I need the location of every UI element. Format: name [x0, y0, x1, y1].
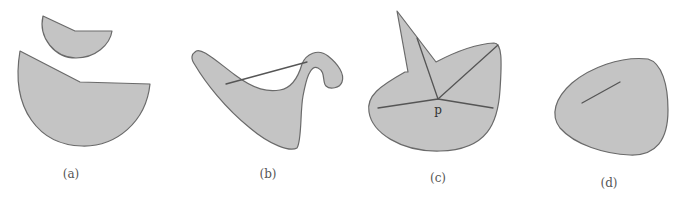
- panel-b: (b): [192, 51, 343, 181]
- panel-a-small-shape: [42, 16, 112, 58]
- panel-c: p (c): [369, 11, 502, 185]
- figure-canvas: (a) (b) p (c) (d): [0, 0, 680, 201]
- panel-c-shape: [369, 11, 502, 151]
- panel-c-label: (c): [430, 171, 446, 185]
- panel-d-shape: [555, 59, 668, 156]
- panel-d: (d): [555, 59, 668, 190]
- panel-c-point-label: p: [434, 103, 442, 117]
- panel-a: (a): [18, 16, 150, 181]
- panel-b-label: (b): [259, 167, 276, 181]
- panel-b-shape: [192, 51, 343, 150]
- panel-a-large-shape: [18, 51, 150, 146]
- panel-a-label: (a): [63, 167, 80, 181]
- panel-d-label: (d): [600, 176, 617, 190]
